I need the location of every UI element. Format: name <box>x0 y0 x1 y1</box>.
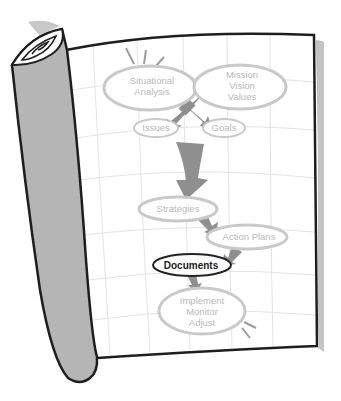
node-label: Issues <box>142 122 170 133</box>
node-label: Situational <box>130 75 174 86</box>
node-situational-analysis: Situational Analysis <box>104 66 196 110</box>
node-label: Mission <box>226 69 258 80</box>
node-strategies: Strategies <box>139 197 217 221</box>
node-implement-monitor-adjust: Implement Monitor Adjust <box>159 288 245 334</box>
node-mission-vision-values: Mission Vision Values <box>194 65 286 109</box>
planning-scroll-diagram: Situational Analysis Mission Vision Valu… <box>0 0 341 401</box>
node-label: Action Plans <box>223 231 276 242</box>
node-goals: Goals <box>203 119 245 137</box>
node-label: Values <box>228 91 257 102</box>
node-label: Analysis <box>134 86 170 97</box>
node-label: Implement <box>180 295 225 306</box>
node-label: Strategies <box>157 203 200 214</box>
node-label: Monitor <box>186 306 218 317</box>
node-label: Documents <box>164 260 219 271</box>
node-issues: Issues <box>134 119 178 137</box>
node-documents: Documents <box>153 254 231 276</box>
node-label: Goals <box>212 122 237 133</box>
node-label: Vision <box>229 80 255 91</box>
node-label: Adjust <box>189 317 216 328</box>
node-action-plans: Action Plans <box>207 225 287 249</box>
